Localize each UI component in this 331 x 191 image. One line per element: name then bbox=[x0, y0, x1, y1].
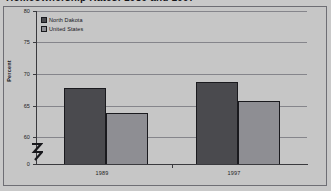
y-axis-label: Percent bbox=[6, 46, 12, 96]
axis-break-icon bbox=[30, 142, 43, 161]
legend-swatch-icon-north-dakota bbox=[41, 17, 47, 23]
y-tick-mark-80 bbox=[33, 11, 36, 12]
x-tick-label-1989: 1989 bbox=[82, 170, 122, 176]
gridline-75 bbox=[36, 42, 307, 43]
gridline-80 bbox=[36, 11, 307, 12]
y-tick-label-0: 0 bbox=[8, 161, 30, 167]
chart-title-strip: Homeownership Rates: 1989 and 1997 bbox=[0, 0, 331, 5]
y-tick-label-80: 80 bbox=[8, 8, 30, 14]
x-tick-label-1997: 1997 bbox=[214, 170, 254, 176]
bar-north-dakota-1997 bbox=[196, 82, 238, 165]
bar-united-states-1997 bbox=[238, 101, 280, 165]
y-tick-mark-65 bbox=[33, 106, 36, 107]
legend-label-united-states: United States bbox=[49, 26, 83, 32]
bar-north-dakota-1989 bbox=[64, 88, 106, 165]
y-tick-mark-0 bbox=[33, 164, 36, 165]
plot-area: North Dakota United States bbox=[36, 11, 307, 165]
y-tick-label-60: 60 bbox=[8, 134, 30, 140]
y-tick-mark-60 bbox=[33, 137, 36, 138]
legend-swatch-icon-united-states bbox=[41, 26, 47, 32]
y-tick-mark-70 bbox=[33, 74, 36, 75]
legend-item-north-dakota: North Dakota bbox=[41, 16, 83, 24]
bar-united-states-1989 bbox=[106, 113, 148, 165]
x-tick-mark-center bbox=[172, 165, 173, 168]
gridline-70 bbox=[36, 74, 307, 75]
chart-legend: North Dakota United States bbox=[41, 16, 83, 34]
y-tick-label-65: 65 bbox=[8, 103, 30, 109]
legend-item-united-states: United States bbox=[41, 25, 83, 33]
page-title: Homeownership Rates: 1989 and 1997 bbox=[6, 0, 195, 3]
legend-label-north-dakota: North Dakota bbox=[49, 17, 83, 23]
chart-figure: Homeownership Rates: 1989 and 1997 North… bbox=[0, 0, 331, 191]
y-tick-label-75: 75 bbox=[8, 39, 30, 45]
y-tick-mark-75 bbox=[33, 42, 36, 43]
